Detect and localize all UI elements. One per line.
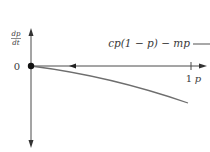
flow-left-arrow-icon — [69, 64, 76, 69]
phase-diagram: dp dt 0 1 p cp(1 − p) − mp — [0, 0, 210, 152]
legend-text: cp(1 − p) − mp — [108, 37, 190, 49]
equilibrium-dot — [28, 63, 34, 69]
x-tick-label: 1 — [186, 73, 192, 84]
y-axis-down-arrow-icon — [29, 140, 34, 148]
x-axis-label: p — [195, 73, 202, 84]
origin-label: 0 — [14, 61, 20, 72]
x-axis-right-arrow-icon — [199, 64, 207, 69]
y-label-denominator: dt — [12, 39, 19, 47]
y-label-numerator: dp — [12, 30, 21, 38]
curve — [31, 66, 188, 103]
y-axis-up-arrow-icon — [29, 28, 34, 36]
